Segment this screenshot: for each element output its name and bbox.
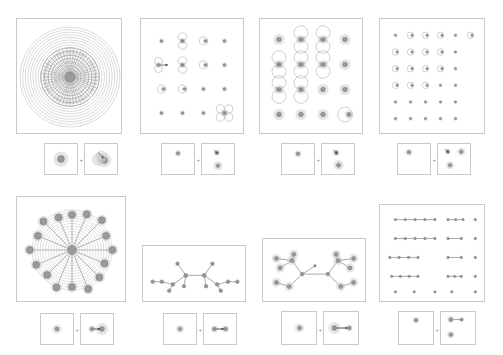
panel-7-subpanel-left[interactable] [281,311,317,345]
panel-grid-6x6-circle-dots[interactable] [379,18,485,134]
seed-graph-plot [162,144,194,174]
seed-graph-plot [399,312,433,344]
figure-canvas: ++++++++ [0,0,503,355]
result-graph-plot [324,312,358,344]
star-wheel-plot [17,197,127,303]
panel-6-subpanel-right[interactable] [203,313,237,345]
radial-rosette-plot [17,19,123,135]
seed-graph-plot [41,314,73,344]
panel-radial-star-wheel-graph[interactable] [16,196,126,302]
panel-1-subpanel-right[interactable] [84,143,118,175]
tree-plot [143,246,247,303]
panel-grid-4x4-circle-pairs[interactable] [140,18,244,134]
result-graph-plot [322,144,354,174]
panel-2-plus-separator: + [197,157,201,163]
panel-2-subpanel-right[interactable] [201,143,235,175]
result-graph-plot [85,144,117,174]
panel-1-plus-separator: + [80,157,84,163]
seed-graph-plot [164,314,196,344]
panel-dendrimer-tree-small[interactable] [142,245,246,302]
seed-graph-plot [282,144,314,174]
path-graphs-plot [380,205,486,303]
seed-graph-plot [45,144,77,174]
panel-4-subpanel-left[interactable] [397,143,431,175]
panel-path-graphs-grid[interactable] [379,204,485,302]
result-graph-plot [202,144,234,174]
panel-3-plus-separator: + [317,157,321,163]
tree-plot [263,239,367,303]
result-graph-plot [81,314,113,344]
lattice-plot [380,19,486,135]
panel-8-subpanel-left[interactable] [398,311,434,345]
result-graph-plot [204,314,236,344]
panel-5-subpanel-right[interactable] [80,313,114,345]
panel-6-plus-separator: + [199,327,203,333]
seed-graph-plot [282,312,316,344]
panel-2-subpanel-left[interactable] [161,143,195,175]
panel-radial-concentric-rosette[interactable] [16,18,122,134]
lattice-plot [260,19,364,135]
panel-dendrimer-tree-large-nodes[interactable] [262,238,366,302]
panel-4-subpanel-right[interactable] [437,143,471,175]
panel-3-subpanel-right[interactable] [321,143,355,175]
panel-5-plus-separator: + [76,327,80,333]
panel-7-plus-separator: + [319,327,323,333]
lattice-plot [141,19,245,135]
panel-1-subpanel-left[interactable] [44,143,78,175]
panel-3-subpanel-left[interactable] [281,143,315,175]
panel-8-subpanel-right[interactable] [440,311,476,345]
panel-4-plus-separator: + [433,157,437,163]
panel-7-subpanel-right[interactable] [323,311,359,345]
seed-graph-plot [398,144,430,174]
panel-grid-4x4-big-circle-pairs[interactable] [259,18,363,134]
panel-5-subpanel-left[interactable] [40,313,74,345]
panel-8-plus-separator: + [436,327,440,333]
panel-6-subpanel-left[interactable] [163,313,197,345]
result-graph-plot [438,144,470,174]
result-graph-plot [441,312,475,344]
